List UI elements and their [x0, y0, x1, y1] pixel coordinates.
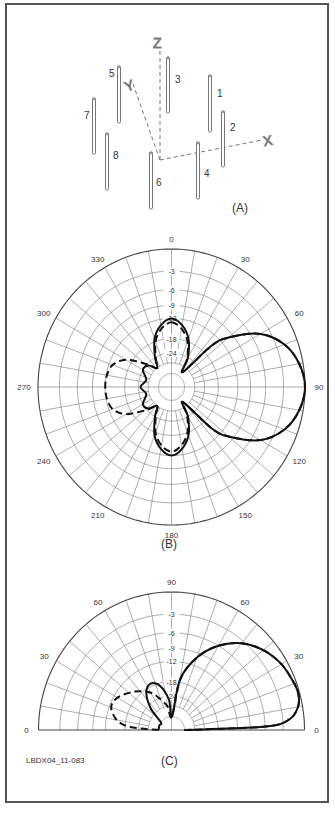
- figure-id: LBDX04_11-083: [26, 756, 85, 765]
- antenna-array-diagram: Z Y X 12345678 (A): [84, 35, 274, 215]
- antenna-element: 2: [222, 111, 237, 167]
- svg-text:-24: -24: [166, 350, 176, 357]
- antenna-number: 6: [156, 177, 162, 188]
- svg-text:60: 60: [295, 309, 304, 318]
- antenna-element: 6: [150, 152, 163, 209]
- svg-text:30: 30: [241, 255, 250, 264]
- svg-text:30: 30: [40, 652, 49, 661]
- svg-text:60: 60: [241, 598, 250, 607]
- svg-text:0: 0: [169, 235, 174, 244]
- antenna-element: 4: [197, 142, 211, 199]
- svg-text:210: 210: [91, 511, 105, 520]
- svg-text:330: 330: [91, 255, 105, 264]
- x-axis: [160, 140, 262, 160]
- svg-text:-3: -3: [168, 268, 174, 275]
- antenna-element: 3: [167, 57, 182, 113]
- panel-b-label: (B): [161, 537, 177, 551]
- svg-text:90: 90: [315, 383, 324, 392]
- y-axis: [133, 84, 160, 160]
- antenna-number: 7: [84, 110, 90, 121]
- svg-text:300: 300: [37, 309, 51, 318]
- elevation-polar-chart: -3-6-9-12-18-24030609060300: [24, 578, 319, 735]
- svg-text:-9: -9: [168, 645, 174, 652]
- svg-text:-9: -9: [168, 302, 174, 309]
- x-axis-label: X: [262, 132, 275, 149]
- antenna-number: 1: [217, 88, 223, 99]
- svg-text:150: 150: [239, 511, 253, 520]
- svg-text:240: 240: [37, 457, 51, 466]
- antenna-number: 2: [230, 122, 236, 133]
- svg-text:-3: -3: [168, 611, 174, 618]
- svg-text:90: 90: [167, 578, 176, 587]
- svg-text:0: 0: [314, 726, 319, 735]
- svg-text:-18: -18: [166, 679, 176, 686]
- antenna-element: 5: [109, 66, 121, 123]
- svg-text:-12: -12: [166, 658, 176, 665]
- azimuth-polar-chart: -3-6-9-12-18-240306090120150180210240270…: [17, 235, 324, 540]
- svg-text:0: 0: [24, 726, 29, 735]
- antenna-element: 7: [84, 98, 96, 154]
- svg-text:-18: -18: [166, 336, 176, 343]
- panel-c-label: (C): [161, 754, 178, 768]
- figure-canvas: Z Y X 12345678 (A) -3-6-9-12-18-24030609…: [0, 0, 335, 813]
- antenna-element: 1: [209, 75, 224, 132]
- svg-text:60: 60: [94, 598, 103, 607]
- antenna-number: 3: [175, 74, 181, 85]
- panel-a-label: (A): [232, 201, 248, 215]
- antenna-number: 4: [204, 168, 210, 179]
- antenna-element: 8: [106, 133, 120, 190]
- antenna-number: 8: [113, 150, 119, 161]
- svg-text:-6: -6: [168, 630, 174, 637]
- z-axis-label: Z: [153, 35, 162, 51]
- svg-text:-6: -6: [168, 287, 174, 294]
- svg-text:120: 120: [293, 457, 307, 466]
- antenna-number: 5: [109, 68, 115, 79]
- svg-text:30: 30: [294, 652, 303, 661]
- y-axis-label: Y: [122, 76, 137, 94]
- svg-text:270: 270: [17, 383, 31, 392]
